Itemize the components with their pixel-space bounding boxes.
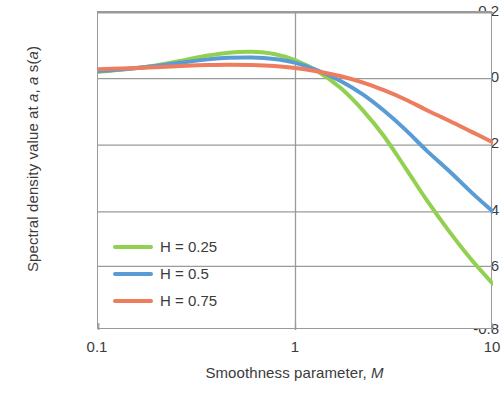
y-axis-title-part-2: , [24,85,41,94]
legend-swatch-coral [113,299,153,303]
x-tick-label-0: 0.1 [67,338,127,356]
chart-legend: H = 0.25 H = 0.5 H = 0.75 [113,233,263,314]
legend-item-0[interactable]: H = 0.25 [113,233,263,260]
legend-label-0: H = 0.25 [160,238,217,255]
y-axis-title-part-1: Spectral density value at [24,102,41,272]
y-axis-title-italic-3: a [24,51,41,59]
legend-swatch-blue [113,272,153,276]
y-axis-title-italic-1: a [24,93,41,101]
y-axis-title-part-4: ) [24,46,41,51]
x-tick-label-1: 1 [265,338,325,356]
y-axis-title-part-3: s( [24,59,41,76]
chart-figure: Spectral density value at a, a s(a) Smoo… [0,0,504,395]
legend-label-2: H = 0.75 [160,292,217,309]
y-axis-title: Spectral density value at a, a s(a) [22,0,44,318]
legend-item-2[interactable]: H = 0.75 [113,287,263,314]
legend-item-1[interactable]: H = 0.5 [113,260,263,287]
y-axis-title-italic-2: a [24,76,41,84]
x-axis-title: Smoothness parameter, M [97,364,492,381]
x-tick-label-2: 10 [462,338,504,356]
x-axis-title-text: Smoothness parameter, [205,364,366,381]
legend-label-1: H = 0.5 [160,265,209,282]
legend-swatch-green [113,245,153,249]
x-axis-title-italic: M [371,364,384,381]
